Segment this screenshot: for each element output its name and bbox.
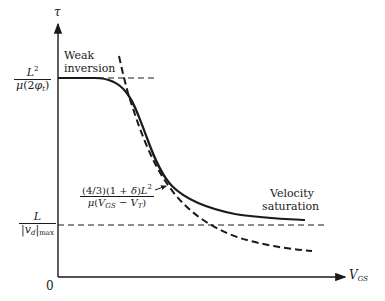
velocity-saturation-denominator: |vd|max xyxy=(19,224,56,239)
velocity-saturation-annotation-line2: saturation xyxy=(262,200,319,213)
transit-time-diagram: τ 0 VGS L2 μ(2φt) L |vd|max Weak inversi… xyxy=(0,0,385,301)
weak-inversion-annotation-line2: inversion xyxy=(64,62,115,75)
weak-inversion-level-label: L2 μ(2φt) xyxy=(14,63,51,95)
strong-inversion-numerator: (4/3)(1 + δ)L2 xyxy=(80,182,154,196)
velocity-saturation-annotation-line1: Velocity xyxy=(270,187,314,200)
diagram-canvas xyxy=(0,0,385,301)
y-axis-label: τ xyxy=(54,5,61,19)
weak-inversion-annotation-line1: Weak xyxy=(64,49,94,62)
velocity-saturation-level-label: L |vd|max xyxy=(19,211,56,239)
strong-inversion-formula: (4/3)(1 + δ)L2 μ(VGS − VT) xyxy=(80,182,154,212)
strong-inversion-asymptote xyxy=(119,56,312,251)
weak-inversion-numerator: L2 xyxy=(25,63,41,79)
asymptote-pointer xyxy=(155,186,166,190)
weak-inversion-denominator: μ(2φt) xyxy=(14,80,51,95)
origin-label: 0 xyxy=(46,279,54,293)
velocity-saturation-numerator: L xyxy=(32,211,43,223)
x-axis-label: VGS xyxy=(349,268,368,283)
strong-inversion-denominator: μ(VGS − VT) xyxy=(86,197,149,212)
